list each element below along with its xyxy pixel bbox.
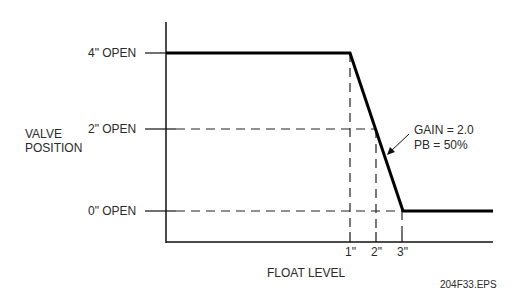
y-tick-label-0: 0" OPEN <box>88 204 136 218</box>
x-tick-label-1: 1" <box>345 245 356 259</box>
annotation-gain: GAIN = 2.0 <box>414 123 474 137</box>
y-axis-label-line2: POSITION <box>25 141 82 155</box>
y-tick-label-4: 4" OPEN <box>88 46 136 60</box>
figure-id: 204F33.EPS <box>440 278 497 292</box>
x-axis-label: FLOAT LEVEL <box>267 266 345 280</box>
x-tick-label-3: 3" <box>397 245 408 259</box>
dashed-guides <box>176 53 402 232</box>
annotation-pb: PB = 50% <box>414 138 468 152</box>
annotation-arrow <box>387 134 409 155</box>
x-tick-label-2: 2" <box>371 245 382 259</box>
y-axis-label-line1: VALVE <box>25 127 62 141</box>
y-tick-label-2: 2" OPEN <box>88 122 136 136</box>
